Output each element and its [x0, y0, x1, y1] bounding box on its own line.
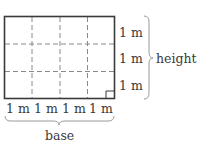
- base-brace: [5, 116, 114, 125]
- grid-lines: [5, 17, 115, 99]
- height-label: height: [156, 51, 197, 66]
- right-angle-marker: [106, 91, 114, 99]
- height-brace: [144, 16, 153, 99]
- base-unit-label-3: 1 m: [62, 101, 86, 116]
- height-unit-label-1: 1 m: [119, 25, 143, 40]
- base-unit-label-4: 1 m: [89, 101, 113, 116]
- height-unit-label-2: 1 m: [119, 51, 143, 66]
- rectangle-area-diagram: 1 m 1 m 1 m height 1 m 1 m 1 m 1 m base: [0, 0, 202, 144]
- base-unit-label-1: 1 m: [6, 101, 30, 116]
- height-unit-label-3: 1 m: [119, 78, 143, 93]
- base-unit-label-2: 1 m: [34, 101, 58, 116]
- base-label: base: [45, 128, 74, 143]
